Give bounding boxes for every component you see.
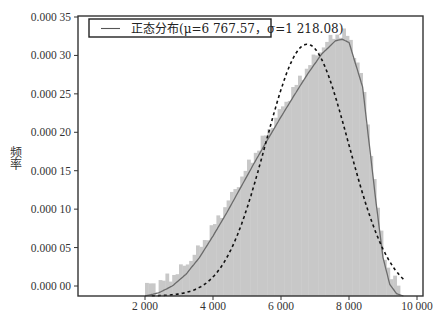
histogram-bar [206,240,210,296]
histogram-bar [254,153,258,296]
histogram-bar [281,106,285,296]
histogram-bar [359,73,363,296]
histogram-bar [165,274,169,296]
histogram-bar [267,129,271,296]
histogram-bar [227,200,231,296]
histogram-bar [298,76,302,296]
y-tick-label: 0.000 35 [31,11,72,23]
histogram-bar [264,135,268,296]
y-axis-label: 频率 [7,146,21,170]
histogram-bar [346,36,350,296]
y-tick-label: 0.000 00 [31,280,72,292]
histogram-bar [145,283,149,296]
y-axis-ticks: 0.000 000.000 050.000 100.000 150.000 20… [31,11,78,292]
histogram-bar [250,163,254,296]
histogram-bar [291,87,295,296]
histogram-bar [335,35,339,296]
histogram-bar [244,171,248,296]
histogram-chart: 0.000 000.000 050.000 100.000 150.000 20… [0,0,443,312]
histogram-bar [301,80,305,296]
histogram-bar [325,42,329,296]
histogram-bar [305,69,309,296]
histogram-bar [308,65,312,296]
histogram-bar [352,58,356,296]
histogram-bar [295,85,299,296]
histogram-bar [332,39,336,296]
histogram-bar [342,28,346,296]
x-tick-label: 8 000 [336,300,362,312]
y-tick-label: 0.000 20 [31,126,72,138]
histogram-bar [169,282,173,296]
x-tick-label: 10 000 [401,300,433,312]
histogram-bar [363,92,367,296]
histogram-bars [145,28,400,296]
histogram-bar [322,47,326,296]
histogram-bar [284,102,288,296]
y-tick-label: 0.000 30 [31,49,72,61]
histogram-bar [318,52,322,296]
y-tick-label: 0.000 10 [31,203,72,215]
legend: 正态分布(μ=6 767.57，σ=1 218.08) [89,19,343,37]
y-tick-label: 0.000 25 [31,88,72,100]
legend-label: 正态分布(μ=6 767.57，σ=1 218.08) [131,22,343,36]
histogram-bar [237,187,241,296]
histogram-bar [196,245,200,296]
histogram-bar [271,128,275,296]
x-tick-label: 4 000 [200,300,226,312]
histogram-bar [182,266,186,296]
histogram-bar [312,55,316,296]
histogram-bar [349,40,353,296]
x-tick-label: 6 000 [268,300,294,312]
histogram-bar [176,274,180,296]
histogram-bar [159,280,163,296]
histogram-bar [220,218,224,296]
y-tick-label: 0.000 15 [31,165,72,177]
histogram-bar [339,38,343,296]
histogram-bar [223,207,227,296]
histogram-bar [162,281,166,296]
x-axis-ticks: 2 0004 0006 0008 00010 000 [132,296,433,312]
y-tick-label: 0.000 05 [31,242,72,254]
histogram-bar [274,118,278,296]
histogram-bar [315,55,319,296]
histogram-bar [233,189,237,296]
histogram-bar [288,101,292,296]
histogram-bar [240,177,244,296]
histogram-bar [278,109,282,296]
x-tick-label: 2 000 [132,300,158,312]
histogram-bar [247,160,251,296]
histogram-bar [329,35,333,296]
